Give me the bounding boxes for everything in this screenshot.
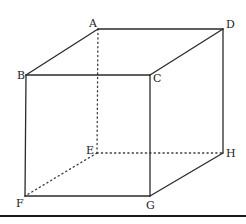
- edge-gh: [150, 153, 223, 196]
- edge-cd: [150, 29, 223, 75]
- vertex-label-e: E: [86, 144, 94, 157]
- hidden-edge-ae: [97, 29, 98, 153]
- hidden-edge-ef: [25, 153, 97, 196]
- edge-bf: [25, 75, 26, 196]
- vertex-label-a: A: [88, 17, 98, 30]
- vertex-label-f: F: [16, 197, 24, 210]
- vertex-label-c: C: [153, 72, 161, 85]
- edge-ab: [26, 29, 98, 75]
- solid-edges: [25, 29, 223, 196]
- vertex-label-h: H: [226, 147, 236, 160]
- vertex-labels: ADBCEHFG: [16, 17, 236, 212]
- vertex-label-b: B: [17, 69, 25, 82]
- vertex-label-g: G: [146, 199, 155, 212]
- cube-diagram: ADBCEHFG: [0, 0, 246, 224]
- vertex-label-d: D: [226, 18, 235, 31]
